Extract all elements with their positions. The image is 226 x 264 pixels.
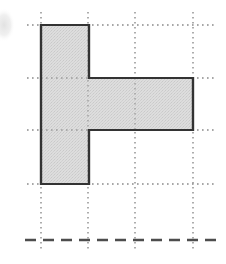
figure-canvas: [0, 0, 226, 264]
paper-background: [0, 0, 226, 264]
grid-figure-svg: [0, 0, 226, 264]
